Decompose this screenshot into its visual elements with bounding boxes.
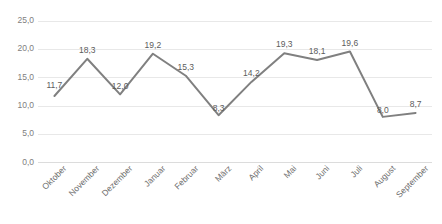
data-label: 8,7 [410, 100, 422, 109]
data-label: 12,0 [112, 82, 129, 91]
data-label: 14,2 [243, 69, 260, 78]
y-axis-tick-label: 10,0 [0, 101, 34, 110]
line-chart: 25,0 20,0 15,0 10,0 5,0 0,0 11,718,312,0… [0, 0, 442, 224]
y-axis-tick-label: 25,0 [0, 16, 34, 25]
x-axis-tick-label: Juli [349, 164, 364, 179]
y-axis-tick-label: 20,0 [0, 44, 34, 53]
x-axis-tick-label: März [213, 164, 233, 184]
y-axis-tick-label: 0,0 [0, 158, 34, 167]
data-label: 18,3 [79, 46, 96, 55]
series-line [38, 21, 432, 162]
gridline-0-baseline [38, 162, 432, 163]
data-label: 8,3 [213, 104, 225, 113]
x-axis-tick-label: Juni [314, 164, 331, 181]
data-label: 11,7 [46, 81, 62, 90]
y-axis-tick-label: 15,0 [0, 73, 34, 82]
x-axis: OktoberNovemberDezemberJanuarFebruarMärz… [38, 164, 432, 224]
x-axis-tick-label: September [394, 164, 430, 200]
data-label: 18,1 [309, 47, 326, 56]
y-axis-tick-label: 5,0 [0, 129, 34, 138]
data-label: 8,0 [377, 106, 389, 115]
data-label: 19,2 [145, 41, 162, 50]
x-axis-tick-label: Januar [143, 164, 168, 189]
x-axis-tick-label: November [68, 164, 102, 198]
plot-area: 11,718,312,019,215,38,314,219,318,119,68… [38, 21, 432, 162]
x-axis-tick-label: Oktober [41, 164, 69, 192]
data-label: 19,3 [276, 40, 293, 49]
x-axis-tick-label: August [372, 164, 397, 189]
x-axis-tick-label: Februar [173, 164, 200, 191]
x-axis-tick-label: April [247, 164, 265, 182]
x-axis-tick-label: Dezember [100, 164, 134, 198]
data-label: 15,3 [178, 63, 195, 72]
x-axis-tick-label: Mai [283, 164, 299, 180]
data-label: 19,6 [342, 39, 359, 48]
